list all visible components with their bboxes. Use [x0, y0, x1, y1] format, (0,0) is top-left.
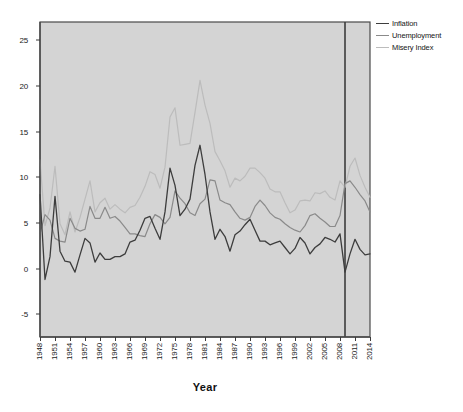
x-tick-label: 1987	[231, 343, 239, 360]
x-tick-mark	[355, 337, 356, 341]
x-tick-label: 1981	[201, 343, 209, 360]
x-tick-mark	[310, 337, 311, 341]
x-tick-label: 2008	[336, 343, 344, 360]
legend-label: Unemployment	[392, 31, 441, 40]
x-tick-mark	[100, 337, 101, 341]
x-tick-label: 2002	[306, 343, 314, 360]
x-tick-mark	[325, 337, 326, 341]
x-tick-mark	[235, 337, 236, 341]
x-tick-mark	[40, 337, 41, 341]
x-tick-mark	[190, 337, 191, 341]
x-tick-label: 2005	[321, 343, 329, 360]
y-tick-mark	[36, 85, 40, 86]
y-tick-mark	[36, 40, 40, 41]
x-tick-label: 1978	[186, 343, 194, 360]
x-tick-label: 1948	[36, 343, 44, 360]
chart-legend: InflationUnemploymentMisery Index	[376, 18, 462, 54]
y-tick-mark	[36, 177, 40, 178]
x-tick-label: 1957	[81, 343, 89, 360]
legend-item-unemployment[interactable]: Unemployment	[376, 30, 462, 40]
legend-swatch-icon	[376, 23, 389, 24]
x-tick-mark	[115, 337, 116, 341]
y-tick-mark	[36, 131, 40, 132]
x-tick-label: 2011	[351, 343, 359, 359]
x-tick-label: 1993	[261, 343, 269, 360]
x-axis: 1948195119541957196019631966196919721975…	[0, 0, 463, 412]
x-axis-title: Year	[0, 381, 410, 393]
x-tick-mark	[250, 337, 251, 341]
x-tick-mark	[340, 337, 341, 341]
x-tick-mark	[295, 337, 296, 341]
x-tick-label: 1963	[111, 343, 119, 360]
x-tick-label: 1996	[276, 343, 284, 360]
x-tick-mark	[280, 337, 281, 341]
legend-item-inflation[interactable]: Inflation	[376, 18, 462, 28]
legend-item-misery-index[interactable]: Misery Index	[376, 42, 462, 52]
x-tick-mark	[175, 337, 176, 341]
x-tick-mark	[265, 337, 266, 341]
x-tick-mark	[220, 337, 221, 341]
x-tick-label: 1951	[51, 343, 59, 360]
legend-swatch-icon	[376, 35, 389, 36]
y-tick-mark	[36, 314, 40, 315]
x-tick-label: 1960	[96, 343, 104, 360]
x-tick-label: 1999	[291, 343, 299, 360]
x-tick-label: 1975	[171, 343, 179, 360]
x-tick-mark	[55, 337, 56, 341]
x-tick-mark	[160, 337, 161, 341]
chart-container: 2520151050-5 194819511954195719601963196…	[0, 0, 463, 412]
x-tick-mark	[145, 337, 146, 341]
x-tick-label: 1972	[156, 343, 164, 360]
x-tick-label: 1990	[246, 343, 254, 360]
legend-label: Misery Index	[392, 43, 433, 52]
x-tick-mark	[130, 337, 131, 341]
y-tick-mark	[36, 222, 40, 223]
x-tick-label: 2014	[366, 343, 374, 360]
x-tick-label: 1984	[216, 343, 224, 360]
x-tick-label: 1966	[126, 343, 134, 360]
x-tick-mark	[370, 337, 371, 341]
x-tick-label: 1954	[66, 343, 74, 360]
x-tick-mark	[85, 337, 86, 341]
x-tick-label: 1969	[141, 343, 149, 360]
legend-label: Inflation	[392, 19, 417, 28]
y-tick-mark	[36, 268, 40, 269]
x-tick-mark	[205, 337, 206, 341]
legend-swatch-icon	[376, 47, 389, 48]
x-tick-mark	[70, 337, 71, 341]
